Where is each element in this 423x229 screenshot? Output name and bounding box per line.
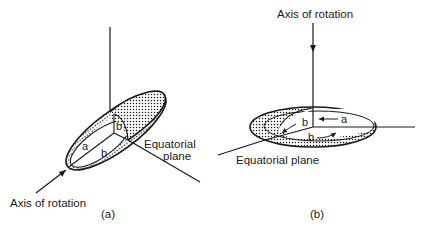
label-equatorial-plane-b: Equatorial plane — [236, 154, 319, 166]
label-equatorial-a: Equatorial — [144, 138, 196, 150]
label-plane-a: plane — [163, 150, 191, 162]
caption-a: (a) — [101, 208, 115, 220]
rotation-axis-arrow-a — [36, 170, 66, 193]
label-b-equatorial: b — [101, 147, 107, 159]
caption-b: (b) — [310, 208, 324, 220]
ellipsoid-diagram: a b b Equatorial plane Axis of rotation … — [0, 0, 423, 229]
label-b2-b: b — [308, 131, 314, 143]
equatorial-plane-line-b — [218, 140, 265, 155]
label-axis-a: Axis of rotation — [10, 197, 86, 209]
panel-a: a b b Equatorial plane Axis of rotation … — [10, 27, 200, 220]
label-a-major: a — [82, 140, 89, 152]
label-b-vertical: b — [116, 120, 122, 132]
label-axis-b: Axis of rotation — [277, 8, 353, 20]
label-a-b: a — [341, 113, 348, 125]
panel-b: Axis of rotation a b b Equatorial plane … — [218, 8, 415, 220]
label-b1-b: b — [302, 116, 308, 128]
